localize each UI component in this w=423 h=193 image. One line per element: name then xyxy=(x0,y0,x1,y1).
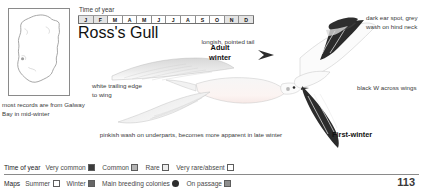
month-cell-m-4: M xyxy=(137,16,152,23)
month-cell-s-8: S xyxy=(196,16,211,23)
legend-item-label: Main breeding colonies xyxy=(102,180,170,187)
legend-item-label: Rare xyxy=(145,164,159,171)
page-title: Ross's Gull xyxy=(78,24,158,42)
legend-item-label: Common xyxy=(102,164,129,171)
month-cell-d-11: D xyxy=(239,16,253,23)
month-cell-a-3: A xyxy=(123,16,138,23)
time-of-year-title: Time of year xyxy=(78,6,254,14)
legend-item-label: On passage xyxy=(186,180,222,187)
month-cell-m-2: M xyxy=(108,16,123,23)
absent-swatch-icon xyxy=(227,164,234,171)
legend-time-of-year-head: Time of year xyxy=(4,164,40,171)
legend-item-label: Summer xyxy=(25,180,50,187)
colony-dot-icon xyxy=(172,180,179,187)
legend-item-label: Very rare/absent xyxy=(176,164,224,171)
longish-pointed-tail-note: longish, pointed tail xyxy=(200,38,256,47)
month-cell-a-7: A xyxy=(181,16,196,23)
common-swatch-icon xyxy=(131,164,138,171)
head-detail-illustration xyxy=(326,18,358,36)
month-cell-f-1: F xyxy=(94,16,109,23)
legend-item-absent: Very rare/absent xyxy=(176,164,234,171)
page-number: 113 xyxy=(397,176,415,188)
white-trailing-edge-note: white trailing edge to wing xyxy=(92,82,148,99)
legend-item-winter: Winter xyxy=(67,180,96,187)
legend-time-of-year: Time of year Very commonCommonRareVery r… xyxy=(0,160,423,174)
month-cell-o-9: O xyxy=(210,16,225,23)
legend-item-common: Common xyxy=(102,164,138,171)
legend-item-rare: Rare xyxy=(145,164,169,171)
distribution-map xyxy=(8,8,70,96)
first-winter-label: First-winter xyxy=(332,130,394,140)
time-of-year-chart: Time of year JFMAMJJASOND xyxy=(78,6,254,24)
legend-maps: Maps SummerWinterMain breeding coloniesO… xyxy=(0,176,423,190)
legend-item-summer: Summer xyxy=(25,180,59,187)
legend-item-label: Very common xyxy=(45,164,85,171)
black-w-note: black W across wings xyxy=(357,84,417,93)
legend-item-colony-dot: Main breeding colonies xyxy=(102,180,179,187)
passage-swatch-icon xyxy=(224,180,231,187)
rare-swatch-icon xyxy=(162,164,169,171)
field-guide-page: most records are from Galway Bay in mid-… xyxy=(0,0,423,193)
summer-swatch-icon xyxy=(53,180,60,187)
legend-divider xyxy=(4,174,419,175)
dark-ear-spot-note: dark ear spot, grey wash on hind neck xyxy=(366,14,422,31)
month-cell-j-0: J xyxy=(79,16,94,23)
month-cell-n-10: N xyxy=(225,16,240,23)
adult-winter-line2: winter xyxy=(196,53,244,63)
legend-item-passage: On passage xyxy=(186,180,231,187)
ireland-outline-icon xyxy=(9,9,69,95)
legend-maps-head: Maps xyxy=(4,180,20,187)
month-cell-j-5: J xyxy=(152,16,167,23)
pinkish-wash-note: pinkish wash on underparts, becomes more… xyxy=(98,131,284,140)
very-common-swatch-icon xyxy=(88,164,95,171)
month-cell-j-6: J xyxy=(166,16,181,23)
legend-item-label: Winter xyxy=(67,180,86,187)
winter-swatch-icon xyxy=(88,180,95,187)
legend-item-very-common: Very common xyxy=(45,164,95,171)
month-cells: JFMAMJJASOND xyxy=(78,16,254,24)
map-caption: most records are from Galway Bay in mid-… xyxy=(2,100,86,118)
